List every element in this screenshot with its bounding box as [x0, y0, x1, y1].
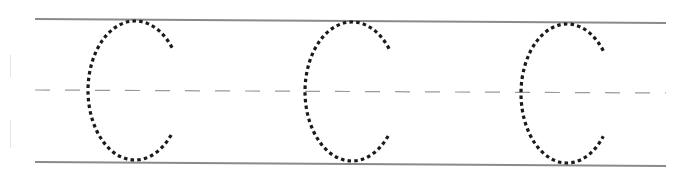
midline-dashed-guide — [35, 90, 666, 93]
tracing-worksheet — [0, 0, 698, 174]
dotted-letter-c-3 — [521, 24, 603, 163]
